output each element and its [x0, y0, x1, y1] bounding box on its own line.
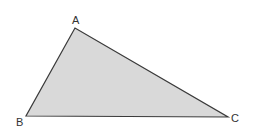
vertex-label-a: A	[72, 14, 80, 26]
vertex-label-b: B	[16, 116, 23, 128]
triangle-diagram: A B C	[0, 0, 253, 140]
triangle-abc	[26, 28, 228, 117]
vertex-label-c: C	[231, 112, 239, 124]
triangle-svg: A B C	[0, 0, 253, 140]
